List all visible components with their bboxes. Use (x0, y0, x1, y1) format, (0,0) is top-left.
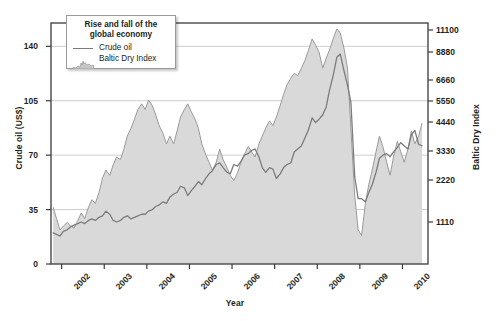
x-tick-2003: 2003 (114, 271, 134, 291)
legend-item-baltic-dry-index: Baltic Dry Index (72, 55, 170, 64)
x-tick-2009: 2009 (369, 271, 389, 291)
legend-line-swatch-icon (72, 44, 94, 53)
x-tick-2008: 2008 (327, 271, 347, 291)
x-tick-2006: 2006 (242, 271, 262, 291)
chart-legend: Rise and fall of the global economy Crud… (66, 15, 176, 69)
x-tick-2010: 2010 (412, 271, 432, 291)
legend-area-swatch-icon (72, 55, 94, 64)
x-tick-2004: 2004 (156, 271, 176, 291)
x-tick-2002: 2002 (71, 271, 91, 291)
x-tick-2007: 2007 (284, 271, 304, 291)
legend-item-crude-oil: Crude oil (72, 44, 170, 53)
legend-label-baltic-dry-index: Baltic Dry Index (99, 55, 156, 63)
chart-figure: Crude oil (US$) Baltic Dry Index Year 03… (0, 0, 498, 321)
x-tick-2005: 2005 (199, 271, 219, 291)
legend-label-crude-oil: Crude oil (99, 44, 132, 52)
legend-title: Rise and fall of the global economy (72, 20, 170, 41)
